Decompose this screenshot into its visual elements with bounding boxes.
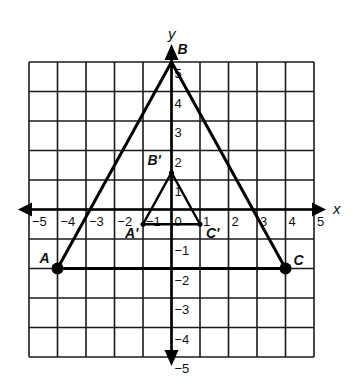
vertex-label: A (39, 250, 50, 266)
y-tick-label: 2 (175, 155, 182, 170)
vertex-dot-icon (141, 222, 146, 227)
x-tick-label: −3 (89, 214, 104, 229)
x-axis-title: x (332, 200, 341, 217)
y-tick-label: 4 (175, 96, 182, 111)
y-tick-label: −3 (175, 302, 190, 317)
y-axis-up-arrow-icon (165, 44, 179, 60)
x-tick-label: 0 (175, 214, 182, 229)
axes (18, 44, 326, 366)
x-tick-label: 2 (232, 214, 239, 229)
vertex-label: B' (148, 152, 162, 168)
vertex-label: B (178, 41, 188, 57)
vertex-dot-icon (169, 170, 174, 175)
x-tick-label: −4 (61, 214, 76, 229)
x-axis-left-arrow-icon (18, 203, 32, 217)
vertex-dot-icon (198, 222, 203, 227)
vertex-point-icon (280, 263, 292, 275)
tick-labels: −5−4−3−2−1012345−5−4−3−2−112345 (32, 66, 324, 376)
x-tick-label: 5 (317, 214, 324, 229)
coordinate-plane-diagram: −5−4−3−2−1012345−5−4−3−2−112345 ABCA'B'C… (0, 0, 363, 392)
y-tick-label: −2 (175, 273, 190, 288)
vertex-point-icon (52, 263, 64, 275)
y-tick-label: 3 (175, 125, 182, 140)
vertex-label: C (294, 252, 305, 268)
y-tick-label: −5 (175, 361, 190, 376)
vertex-label: C' (206, 225, 220, 241)
y-tick-label: −4 (175, 332, 190, 347)
x-tick-label: −5 (32, 214, 47, 229)
y-tick-label: −1 (175, 243, 190, 258)
y-axis-title: y (167, 25, 177, 42)
x-tick-label: 4 (289, 214, 296, 229)
vertex-label: A' (124, 225, 139, 241)
